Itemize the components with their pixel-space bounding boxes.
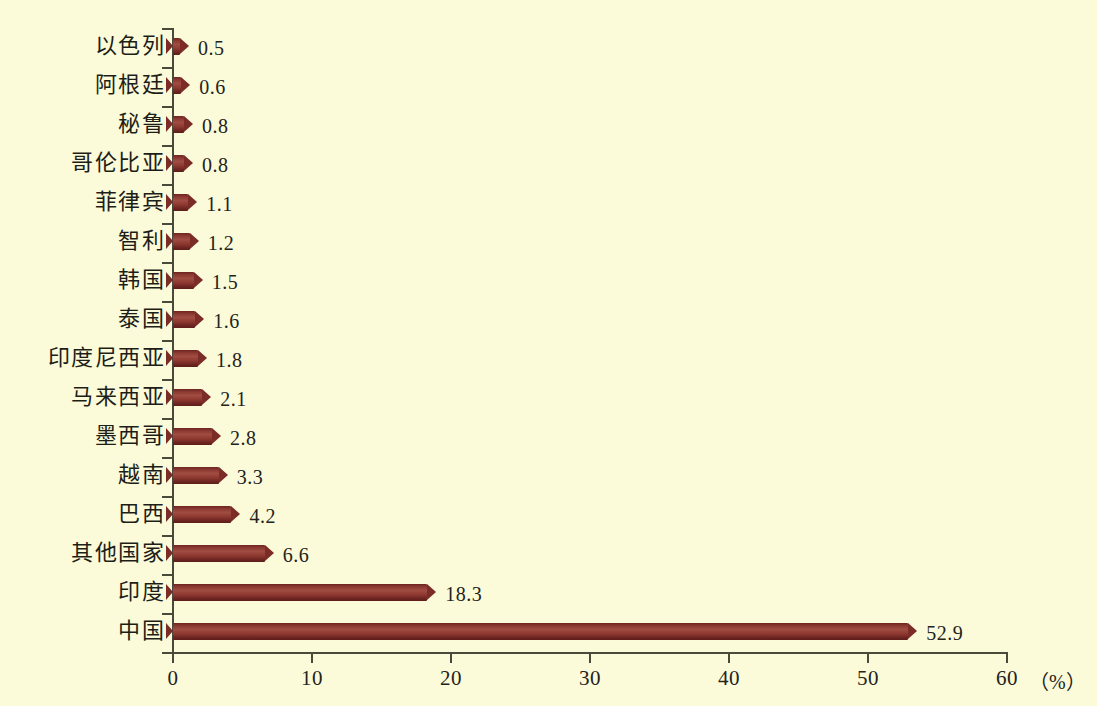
bar-row: 菲律宾1.1 bbox=[0, 184, 1097, 220]
bar-row: 以色列0.5 bbox=[0, 28, 1097, 64]
value-label: 0.5 bbox=[198, 37, 225, 60]
bar-fill bbox=[173, 194, 188, 211]
x-axis-tick bbox=[311, 653, 313, 663]
category-label: 印度尼西亚 bbox=[0, 340, 165, 376]
bar bbox=[173, 545, 265, 562]
bar bbox=[173, 233, 190, 250]
y-axis-tick bbox=[162, 652, 172, 654]
x-axis-tick bbox=[172, 653, 174, 663]
value-label: 18.3 bbox=[445, 583, 482, 606]
x-axis-unit-label: （%） bbox=[1029, 666, 1086, 695]
bar bbox=[173, 389, 202, 406]
bar bbox=[173, 623, 908, 640]
bar-row: 中国52.9 bbox=[0, 613, 1097, 649]
bar-row: 马来西亚2.1 bbox=[0, 379, 1097, 415]
x-axis-tick-label: 20 bbox=[421, 666, 481, 691]
bar bbox=[173, 272, 194, 289]
bar bbox=[173, 467, 219, 484]
bar-row: 印度18.3 bbox=[0, 574, 1097, 610]
bar-fill bbox=[173, 77, 181, 94]
value-label: 52.9 bbox=[926, 622, 963, 645]
bar bbox=[173, 116, 184, 133]
bar-fill bbox=[173, 584, 427, 601]
bar-fill bbox=[173, 545, 265, 562]
value-label: 2.8 bbox=[230, 427, 257, 450]
bar-row: 印度尼西亚1.8 bbox=[0, 340, 1097, 376]
value-label: 4.2 bbox=[249, 505, 276, 528]
bar-fill bbox=[173, 467, 219, 484]
category-label: 智利 bbox=[0, 223, 165, 259]
category-label: 菲律宾 bbox=[0, 184, 165, 220]
x-axis-tick bbox=[1006, 653, 1008, 663]
category-label: 阿根廷 bbox=[0, 67, 165, 103]
value-label: 6.6 bbox=[283, 544, 310, 567]
bar-fill bbox=[173, 116, 184, 133]
bar-fill bbox=[173, 389, 202, 406]
bar bbox=[173, 311, 195, 328]
category-label: 越南 bbox=[0, 457, 165, 493]
bar bbox=[173, 77, 181, 94]
x-axis-tick-label: 10 bbox=[282, 666, 342, 691]
bar bbox=[173, 428, 212, 445]
x-axis-tick bbox=[728, 653, 730, 663]
category-label: 中国 bbox=[0, 613, 165, 649]
bar-fill bbox=[173, 506, 231, 523]
category-label: 泰国 bbox=[0, 301, 165, 337]
value-label: 1.1 bbox=[206, 193, 233, 216]
value-label: 0.8 bbox=[202, 154, 229, 177]
bar bbox=[173, 155, 184, 172]
bar-fill bbox=[173, 155, 184, 172]
value-label: 1.8 bbox=[216, 349, 243, 372]
category-label: 印度 bbox=[0, 574, 165, 610]
plot-area: 以色列0.5阿根廷0.6秘鲁0.8哥伦比亚0.8菲律宾1.1智利1.2韩国1.5… bbox=[0, 0, 1097, 706]
x-axis-tick bbox=[867, 653, 869, 663]
bar-row: 其他国家6.6 bbox=[0, 535, 1097, 571]
x-axis-tick bbox=[450, 653, 452, 663]
bar-fill bbox=[173, 272, 194, 289]
bar-row: 哥伦比亚0.8 bbox=[0, 145, 1097, 181]
category-label: 其他国家 bbox=[0, 535, 165, 571]
bar-row: 泰国1.6 bbox=[0, 301, 1097, 337]
bar-fill bbox=[173, 233, 190, 250]
bar-row: 墨西哥2.8 bbox=[0, 418, 1097, 454]
bar bbox=[173, 506, 231, 523]
category-label: 哥伦比亚 bbox=[0, 145, 165, 181]
bar-row: 智利1.2 bbox=[0, 223, 1097, 259]
bar bbox=[173, 194, 188, 211]
x-axis-tick-label: 60 bbox=[977, 666, 1037, 691]
bar-fill bbox=[173, 38, 180, 55]
value-label: 0.6 bbox=[199, 76, 226, 99]
bar bbox=[173, 38, 180, 55]
value-label: 1.6 bbox=[213, 310, 240, 333]
bar-fill bbox=[173, 428, 212, 445]
bar-fill bbox=[173, 623, 908, 640]
category-label: 马来西亚 bbox=[0, 379, 165, 415]
category-label: 墨西哥 bbox=[0, 418, 165, 454]
x-axis-tick-label: 40 bbox=[699, 666, 759, 691]
x-axis-tick-label: 50 bbox=[838, 666, 898, 691]
value-label: 0.8 bbox=[202, 115, 229, 138]
bar-row: 韩国1.5 bbox=[0, 262, 1097, 298]
bar-row: 阿根廷0.6 bbox=[0, 67, 1097, 103]
x-axis-tick-label: 30 bbox=[560, 666, 620, 691]
x-axis-tick bbox=[589, 653, 591, 663]
bar-fill bbox=[173, 311, 195, 328]
category-label: 秘鲁 bbox=[0, 106, 165, 142]
x-axis-tick-label: 0 bbox=[143, 666, 203, 691]
bar-fill bbox=[173, 350, 198, 367]
bar bbox=[173, 350, 198, 367]
bar bbox=[173, 584, 427, 601]
category-label: 巴西 bbox=[0, 496, 165, 532]
bar-chart: 以色列0.5阿根廷0.6秘鲁0.8哥伦比亚0.8菲律宾1.1智利1.2韩国1.5… bbox=[0, 0, 1097, 706]
bar-row: 越南3.3 bbox=[0, 457, 1097, 493]
value-label: 2.1 bbox=[220, 388, 247, 411]
value-label: 1.5 bbox=[212, 271, 239, 294]
bar-row: 巴西4.2 bbox=[0, 496, 1097, 532]
category-label: 以色列 bbox=[0, 28, 165, 64]
category-label: 韩国 bbox=[0, 262, 165, 298]
value-label: 3.3 bbox=[237, 466, 264, 489]
value-label: 1.2 bbox=[208, 232, 235, 255]
bar-row: 秘鲁0.8 bbox=[0, 106, 1097, 142]
